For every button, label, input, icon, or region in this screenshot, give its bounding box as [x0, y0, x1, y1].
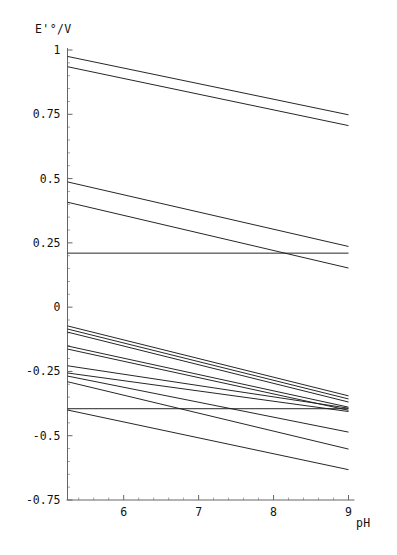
plot-canvas — [0, 0, 397, 555]
y-tick-label: 1 — [54, 43, 61, 57]
data-line-line-02 — [68, 67, 349, 126]
data-line-line-04 — [68, 202, 349, 268]
data-line-line-09 — [68, 346, 349, 407]
data-line-line-11 — [68, 366, 349, 408]
y-tick-label: -0.25 — [26, 364, 61, 378]
y-tick-label: 0 — [54, 300, 61, 314]
tick-marks — [68, 50, 349, 500]
data-line-line-10 — [68, 349, 349, 410]
data-line-line-03 — [68, 182, 349, 247]
y-tick-label: 0.25 — [33, 236, 61, 250]
axis-lines — [67, 48, 355, 500]
data-line-line-01 — [68, 56, 349, 114]
x-tick-label: 9 — [345, 505, 352, 519]
x-tick-label: 7 — [195, 505, 202, 519]
data-line-line-07 — [68, 329, 349, 399]
y-tick-label: -0.5 — [33, 429, 61, 443]
x-tick-label: 6 — [120, 505, 127, 519]
y-tick-label: 0.5 — [40, 172, 61, 186]
chart-figure: E'°/V pH 10.750.50.250-0.25-0.5-0.75 678… — [0, 0, 397, 555]
x-tick-label: 8 — [270, 505, 277, 519]
y-tick-label: -0.75 — [26, 493, 61, 507]
x-axis-title: pH — [356, 516, 371, 530]
y-axis-title: E'°/V — [35, 22, 72, 36]
data-series-lines — [68, 56, 349, 469]
y-tick-label: 0.75 — [33, 107, 61, 121]
data-line-line-16 — [68, 410, 349, 470]
data-line-line-13 — [68, 376, 349, 432]
data-line-line-06 — [68, 326, 349, 396]
